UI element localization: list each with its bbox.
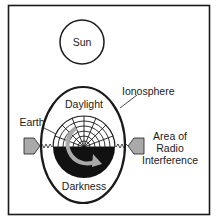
ionosphere-diagram: Sun Ionosphere Daylight Earth Area of Ra… [0,0,218,220]
sun-label: Sun [73,36,92,48]
interference-label-line3: Interference [142,154,198,166]
earth-label: Earth [19,116,44,128]
interference-label-line1: Area of [153,130,187,142]
left-interference-arrow-icon [24,138,40,154]
right-interference-arrow-icon [128,138,144,154]
right-zigzag-icon [116,144,128,148]
earth-leader [44,128,56,134]
earth-day-grid [53,116,115,147]
daylight-label: Daylight [65,98,103,110]
ionosphere-label: Ionosphere [122,85,175,97]
interference-label-line2: Radio [156,142,184,154]
frame-border [9,6,210,215]
darkness-label: Darkness [62,180,106,192]
